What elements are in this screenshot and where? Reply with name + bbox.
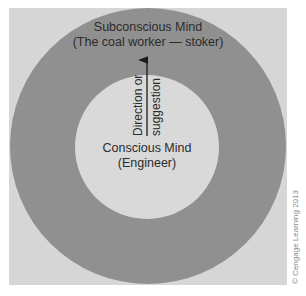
conscious-label: Conscious Mind (Engineer) [77,141,217,171]
copyright-notice: © Cengage Learning 2013 [291,190,300,284]
conscious-subtitle: (Engineer) [77,156,217,171]
arrow-label-line1: Direction or [132,75,145,136]
conscious-title: Conscious Mind [77,141,217,156]
subconscious-subtitle: (The coal worker — stoker) [48,35,248,50]
subconscious-label: Subconscious Mind (The coal worker — sto… [48,20,248,50]
arrow-label-line2: suggestion [150,78,163,136]
subconscious-title: Subconscious Mind [48,20,248,35]
